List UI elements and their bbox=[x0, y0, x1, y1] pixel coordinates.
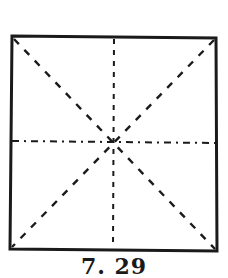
vertical-fold-line bbox=[113, 39, 114, 248]
figure-caption: 7. 29 bbox=[0, 255, 228, 277]
diagonal-fold-line-tl-br bbox=[14, 39, 215, 249]
horizontal-fold-line bbox=[12, 141, 215, 143]
